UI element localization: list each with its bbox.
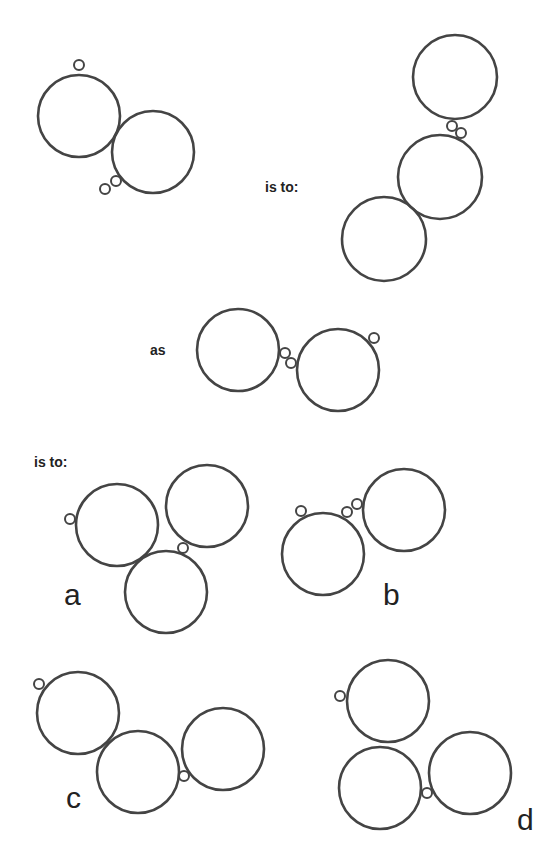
figure-3 bbox=[197, 309, 379, 411]
is-to-label-2: is to: bbox=[34, 454, 67, 470]
option-label-a: a bbox=[64, 578, 81, 611]
large-circle bbox=[297, 329, 379, 411]
option-d[interactable]: d bbox=[335, 660, 534, 836]
large-circle bbox=[339, 747, 421, 829]
small-circle bbox=[65, 514, 75, 524]
option-b[interactable]: b bbox=[282, 469, 445, 611]
figure-1 bbox=[38, 60, 194, 194]
large-circle bbox=[37, 672, 119, 754]
large-circle bbox=[166, 465, 248, 547]
small-circle bbox=[179, 771, 189, 781]
small-circle bbox=[342, 507, 352, 517]
small-circle bbox=[74, 60, 84, 70]
large-circle bbox=[342, 197, 426, 281]
large-circle bbox=[76, 484, 158, 566]
small-circle bbox=[447, 121, 457, 131]
large-circle bbox=[363, 469, 445, 551]
small-circle bbox=[335, 691, 345, 701]
large-circle bbox=[38, 75, 120, 157]
small-circle bbox=[352, 499, 362, 509]
small-circle bbox=[178, 543, 188, 553]
figure-2 bbox=[342, 35, 497, 281]
small-circle bbox=[422, 788, 432, 798]
small-circle bbox=[296, 506, 306, 516]
option-label-d: d bbox=[517, 803, 534, 836]
figures-group bbox=[38, 35, 497, 411]
large-circle bbox=[112, 111, 194, 193]
option-a[interactable]: a bbox=[64, 465, 248, 633]
large-circle bbox=[97, 731, 179, 813]
as-label: as bbox=[150, 342, 166, 358]
option-label-c: c bbox=[66, 781, 81, 814]
large-circle bbox=[429, 732, 511, 814]
option-label-b: b bbox=[383, 578, 400, 611]
small-circle bbox=[369, 333, 379, 343]
large-circle bbox=[125, 551, 207, 633]
large-circle bbox=[197, 309, 279, 391]
small-circle bbox=[286, 358, 296, 368]
analogy-puzzle: abcd is to: as is to: bbox=[0, 0, 552, 851]
large-circle bbox=[413, 35, 497, 119]
option-c[interactable]: c bbox=[34, 672, 264, 814]
small-circle bbox=[100, 184, 110, 194]
large-circle bbox=[347, 660, 429, 742]
options-group: abcd bbox=[34, 465, 534, 836]
small-circle bbox=[34, 679, 44, 689]
large-circle bbox=[182, 708, 264, 790]
small-circle bbox=[111, 176, 121, 186]
small-circle bbox=[456, 128, 466, 138]
is-to-label-1: is to: bbox=[265, 179, 298, 195]
small-circle bbox=[280, 348, 290, 358]
large-circle bbox=[282, 513, 364, 595]
